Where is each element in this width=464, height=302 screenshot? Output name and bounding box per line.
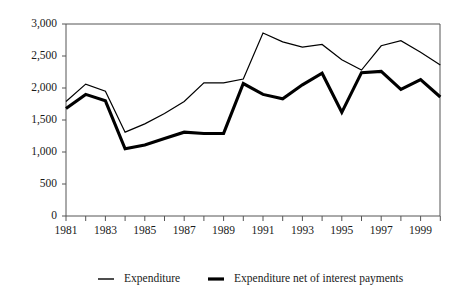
x-tick-label: 1981: [55, 224, 78, 236]
y-tick-label: 1,500: [31, 113, 57, 126]
y-tick-label: 2,500: [31, 49, 57, 62]
y-tick-label: 1,000: [31, 145, 57, 158]
chart-container: 3,000 2,500 2,000 1,500 1,000 500 0: [0, 0, 464, 302]
x-tick-label: 1995: [330, 224, 353, 236]
x-tick-label: 1997: [370, 224, 393, 236]
legend-label-expenditure: Expenditure: [124, 272, 180, 285]
x-tick-label: 1989: [212, 224, 235, 236]
y-tick-label: 3,000: [31, 17, 57, 30]
line-chart-figure: 3,000 2,500 2,000 1,500 1,000 500 0: [0, 0, 464, 302]
x-tick-label: 1983: [94, 224, 117, 236]
x-tick-label: 1987: [173, 224, 196, 236]
y-tick-label: 2,000: [31, 81, 57, 94]
y-tick-label: 500: [40, 177, 58, 189]
y-tick-label: 0: [51, 209, 57, 221]
x-tick-label: 1999: [409, 224, 432, 236]
x-tick-label: 1991: [252, 224, 275, 236]
chart-legend: Expenditure Expenditure net of interest …: [98, 272, 404, 285]
legend-label-expenditure-net: Expenditure net of interest payments: [234, 272, 404, 285]
chart-background: [0, 0, 464, 302]
x-tick-label: 1993: [291, 224, 314, 236]
x-tick-label: 1985: [133, 224, 156, 236]
